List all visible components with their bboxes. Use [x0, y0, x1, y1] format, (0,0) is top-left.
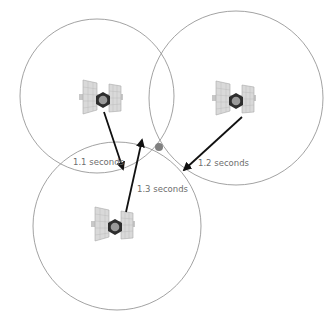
- satellite-2-icon: [212, 81, 256, 115]
- signal-time-label-satellite-1: 1.1 seconds: [73, 157, 125, 167]
- signal-arrow-satellite-3: [126, 140, 142, 212]
- signal-time-label-satellite-2: 1.2 seconds: [198, 158, 250, 168]
- receiver-position-dot: [155, 143, 163, 151]
- trilateration-diagram: 1.1 seconds 1.2 seconds 1.3 seconds: [0, 0, 333, 327]
- satellite-3-icon: [91, 207, 135, 241]
- signal-time-label-satellite-3: 1.3 seconds: [137, 184, 189, 194]
- satellite-1-icon: [79, 80, 123, 114]
